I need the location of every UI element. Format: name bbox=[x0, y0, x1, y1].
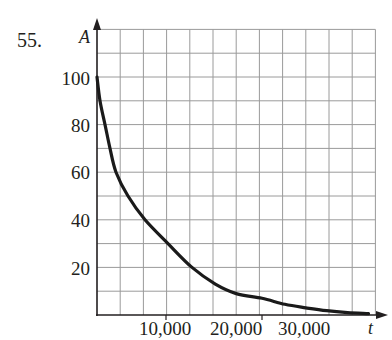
y-axis-label: A bbox=[78, 27, 91, 47]
problem-number: 55. bbox=[17, 29, 42, 51]
decay-chart: 55. A t 100 80 60 40 20 10,000 20,000 30… bbox=[0, 0, 392, 340]
y-tick-label-100: 100 bbox=[62, 68, 91, 89]
x-tick-label-30000: 30,000 bbox=[278, 318, 330, 339]
y-axis-arrow-icon bbox=[93, 18, 101, 30]
grid bbox=[97, 29, 375, 315]
x-axis-arrow-icon bbox=[376, 311, 388, 319]
x-tick-label-10000: 10,000 bbox=[139, 318, 191, 339]
decay-curve bbox=[97, 77, 369, 314]
y-tick-label-40: 40 bbox=[71, 210, 90, 231]
y-tick-label-80: 80 bbox=[71, 115, 90, 136]
y-tick-label-20: 20 bbox=[71, 258, 90, 279]
x-tick-label-20000: 20,000 bbox=[210, 318, 262, 339]
y-tick-label-60: 60 bbox=[71, 162, 90, 183]
x-axis-label: t bbox=[368, 318, 374, 338]
